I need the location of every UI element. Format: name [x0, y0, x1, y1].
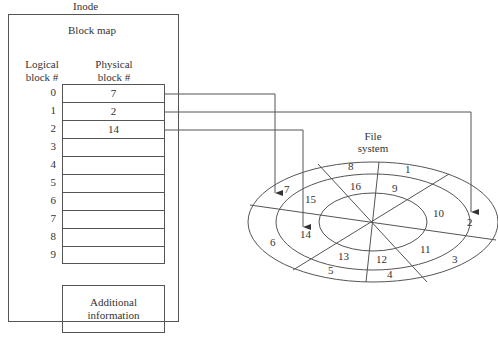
block-label: 9 [392, 182, 398, 194]
file-system-title: File system [350, 130, 396, 154]
block-label: 15 [305, 193, 316, 205]
block-label: 10 [433, 207, 444, 219]
arrow-1-to-2 [165, 112, 471, 212]
fs-title-line2: system [350, 142, 396, 154]
block-label: 2 [467, 216, 473, 228]
fs-title-line1: File [350, 130, 396, 142]
block-label: 7 [284, 183, 290, 195]
block-label: 11 [420, 243, 431, 255]
block-label: 4 [387, 268, 393, 280]
block-label: 5 [328, 264, 334, 276]
block-label: 8 [348, 160, 354, 172]
block-label: 3 [452, 253, 458, 265]
block-label: 1 [405, 163, 411, 175]
block-label: 6 [270, 236, 276, 248]
arrow-0-to-7 [165, 94, 275, 193]
file-system-diagram [0, 0, 498, 356]
block-label: 13 [338, 250, 349, 262]
arrow-2-to-14 [165, 130, 303, 227]
block-label: 16 [350, 180, 361, 192]
block-label: 14 [300, 228, 311, 240]
block-label: 12 [376, 253, 387, 265]
